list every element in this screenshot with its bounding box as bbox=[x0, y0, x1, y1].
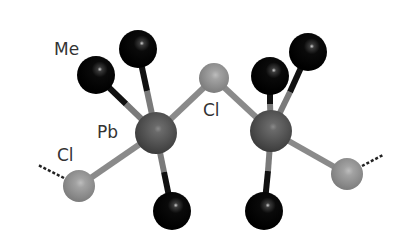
atom-me5 bbox=[289, 33, 327, 71]
atom-pb2 bbox=[250, 110, 292, 152]
atom-pb1 bbox=[135, 112, 177, 154]
atom-me2 bbox=[119, 30, 157, 68]
atom-cl-right bbox=[331, 158, 363, 190]
atom-cl-bridge bbox=[199, 63, 229, 93]
atom-cl-left bbox=[63, 170, 95, 202]
atom-me6 bbox=[245, 192, 283, 230]
atom-me1 bbox=[77, 56, 115, 94]
label-cl-left: Cl bbox=[57, 145, 74, 165]
molecular-diagram: Me Pb Cl Cl bbox=[0, 0, 412, 250]
label-cl-bridge: Cl bbox=[203, 100, 220, 120]
dashed-bond-left bbox=[38, 165, 64, 178]
atom-me3 bbox=[153, 192, 191, 230]
label-pb: Pb bbox=[97, 122, 118, 142]
atom-me4 bbox=[251, 57, 289, 95]
label-me: Me bbox=[54, 39, 79, 59]
dashed-bond-right bbox=[362, 155, 383, 166]
